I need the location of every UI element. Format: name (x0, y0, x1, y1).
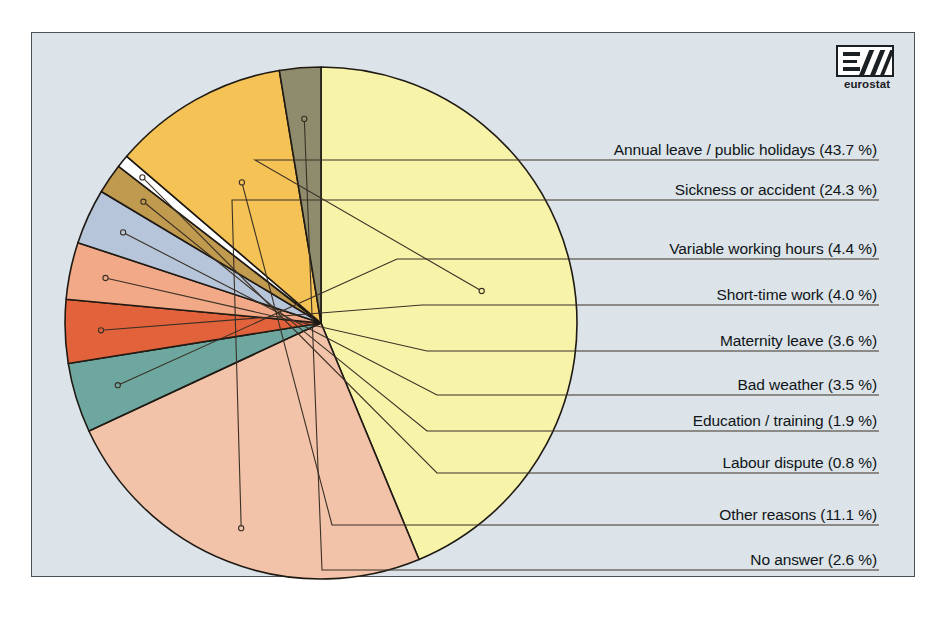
eurostat-wordmark: eurostat (836, 78, 898, 90)
leader-dot (479, 288, 484, 293)
pie-label-no-answer: No answer (2.6 %) (750, 551, 877, 569)
leader-dot (98, 328, 103, 333)
leader-dot (239, 526, 244, 531)
leader-dot (302, 116, 307, 121)
leader-dot (103, 275, 108, 280)
pie-label-maternity: Maternity leave (3.6 %) (720, 332, 877, 350)
pie-label-variable-hours: Variable working hours (4.4 %) (669, 240, 877, 258)
leader-dot (115, 383, 120, 388)
pie-label-bad-weather: Bad weather (3.5 %) (738, 376, 877, 394)
pie-label-short-time: Short-time work (4.0 %) (717, 286, 878, 304)
leader-dot (140, 175, 145, 180)
leader-dot (239, 180, 244, 185)
eurostat-mark-icon (836, 45, 894, 77)
pie-label-annual-leave: Annual leave / public holidays (43.7 %) (614, 141, 877, 159)
pie-chart (32, 33, 916, 578)
pie-label-labour-dispute: Labour dispute (0.8 %) (722, 454, 877, 472)
pie-label-other-reasons: Other reasons (11.1 %) (719, 506, 877, 524)
leader-dot (121, 230, 126, 235)
pie-label-education: Education / training (1.9 %) (693, 412, 877, 430)
pie-slices (65, 67, 577, 579)
chart-frame: Annual leave / public holidays (43.7 %)S… (31, 32, 915, 577)
leader-dot (141, 199, 146, 204)
eurostat-logo: eurostat (836, 45, 898, 90)
pie-label-sickness: Sickness or accident (24.3 %) (675, 181, 877, 199)
